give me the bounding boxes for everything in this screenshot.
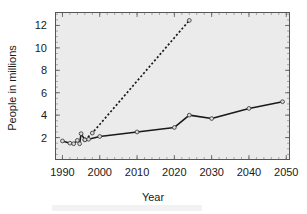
plot-area (55, 12, 290, 160)
y-tick-label: 10 (35, 42, 47, 54)
data-point-marker (210, 117, 214, 121)
data-point-marker (83, 138, 87, 142)
y-tick-label: 12 (35, 19, 47, 31)
data-point-marker (68, 141, 72, 145)
x-axis-title: Year (142, 191, 165, 203)
data-point-marker (281, 100, 285, 104)
data-point-marker (247, 107, 251, 111)
data-point-marker (72, 142, 76, 146)
data-point-marker (187, 113, 191, 117)
x-tick-label: 2040 (237, 166, 261, 178)
data-point-marker (87, 137, 91, 141)
data-point-marker (79, 132, 83, 136)
y-tick-label: 6 (41, 87, 47, 99)
x-tick-label: 2030 (199, 166, 223, 178)
data-point-marker (78, 142, 82, 146)
chart-figure: 1990200020102020203020402050 24681012 Ye… (0, 0, 307, 214)
data-point-marker (61, 139, 65, 143)
y-tick-label: 2 (41, 132, 47, 144)
data-point-marker (187, 19, 191, 23)
data-point-marker (135, 130, 139, 134)
data-point-marker (90, 131, 94, 135)
x-tick-label: 1990 (50, 166, 74, 178)
line-chart: 1990200020102020203020402050 24681012 Ye… (0, 0, 307, 214)
y-axis-title: People in millions (6, 45, 18, 131)
y-tick-label: 8 (41, 64, 47, 76)
x-tick-label: 2050 (274, 166, 298, 178)
x-tick-label: 2000 (88, 166, 112, 178)
x-tick-label: 2010 (125, 166, 149, 178)
figure-footer-shadow (52, 205, 202, 211)
y-tick-label: 4 (41, 109, 47, 121)
data-point-marker (172, 126, 176, 130)
data-point-marker (98, 135, 102, 139)
x-tick-label: 2020 (162, 166, 186, 178)
